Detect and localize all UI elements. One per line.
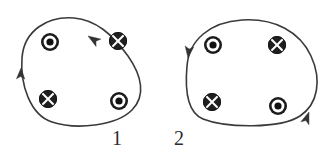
figure-canvas (0, 0, 327, 153)
loop-1-group (16, 18, 140, 126)
loop-2-arrow-left-down (184, 46, 194, 58)
loop-1-label: 1 (112, 128, 122, 148)
loop-2-symbol-cross-top-right (268, 36, 286, 54)
loop-2-arrow-right-up (301, 111, 313, 125)
physics-current-loops-figure: 1 2 (0, 0, 327, 153)
loop-1-arrow-top-right (86, 32, 101, 46)
loop-2-symbol-cross-bottom-left (203, 93, 221, 111)
loop-1-arrow-left-up (16, 68, 25, 79)
loop-1-symbol-dot-bottom-right (110, 92, 128, 110)
loop-2-outline (186, 20, 317, 126)
loop-1-symbol-cross-bottom-left (39, 90, 57, 108)
loop-2-symbol-dot-bottom-right (269, 97, 287, 115)
loop-2-group (184, 20, 317, 126)
loop-1-symbol-cross-top-right (109, 32, 127, 50)
loop-2-symbol-dot-top-left (204, 36, 222, 54)
loop-1-symbol-dot-top-left (41, 33, 59, 51)
loop-2-label: 2 (174, 128, 184, 148)
